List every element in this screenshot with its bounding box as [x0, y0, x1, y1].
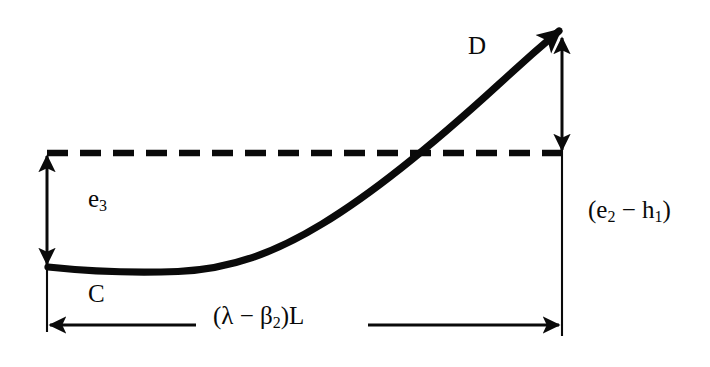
- span-beta-subscript: 2: [273, 314, 281, 331]
- span-minus: −: [233, 302, 260, 329]
- span-close-paren: )L: [281, 302, 305, 329]
- height-label-e3: e3: [88, 186, 107, 214]
- span-beta: β: [260, 302, 273, 329]
- curve-label-C: C: [88, 281, 105, 306]
- span-lambda: λ: [221, 302, 233, 329]
- diagram-svg: [0, 0, 710, 367]
- e3-subscript: 3: [99, 197, 107, 214]
- height-label-e2-h1: (e2 − h1): [588, 197, 671, 225]
- rise-h-base: h: [642, 196, 655, 223]
- rise-h-subscript: 1: [655, 208, 663, 225]
- curve-label-D: D: [468, 33, 486, 58]
- rise-minus: −: [615, 196, 642, 223]
- rise-close-paren: ): [663, 196, 671, 223]
- rise-e-base: e: [596, 196, 607, 223]
- e3-base: e: [88, 185, 99, 212]
- span-label: (λ − β2)L: [213, 303, 304, 331]
- figure-canvas: e3 C D (λ − β2)L (e2 − h1): [0, 0, 710, 367]
